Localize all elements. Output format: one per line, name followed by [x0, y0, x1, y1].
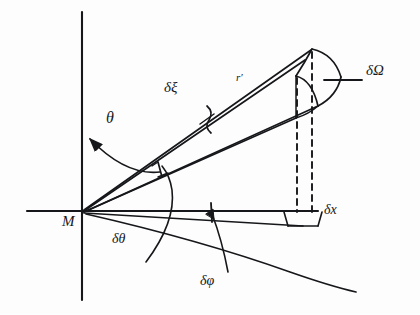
label-delta-x: δx — [324, 203, 337, 217]
label-delta-phi: δφ — [200, 274, 214, 288]
figure-canvas: M θ δξ r′ δΩ δx δθ δφ — [0, 0, 420, 315]
cap-arc-inner-top — [296, 49, 312, 76]
delta-theta-leader-curve — [146, 166, 172, 262]
cap-arc-bottom-inner — [296, 106, 318, 118]
label-delta-theta: δθ — [112, 232, 125, 246]
deltax-base-slant — [318, 212, 322, 226]
theta-angle-arc — [90, 139, 160, 172]
label-delta-xi: δξ — [164, 80, 177, 95]
beam-base-ray — [84, 213, 303, 226]
cap-arc-top — [312, 49, 341, 77]
delta-theta-tick — [158, 162, 162, 177]
label-theta: θ — [106, 110, 114, 126]
beam-upper-ray-inner — [84, 60, 305, 211]
beam-lower-ray-secondary — [84, 118, 296, 212]
label-r-prime: r′ — [236, 72, 243, 83]
label-delta-omega: δΩ — [366, 63, 384, 78]
label-origin-M: M — [62, 214, 75, 229]
deltax-base-slant-left — [284, 212, 288, 226]
cap-arc-right — [318, 77, 341, 106]
delta-phi-leader-curve — [212, 214, 228, 272]
beam-upper-ray-outer — [84, 50, 311, 210]
diagram-svg — [0, 0, 420, 315]
cap-arc-inner-left — [296, 76, 318, 106]
